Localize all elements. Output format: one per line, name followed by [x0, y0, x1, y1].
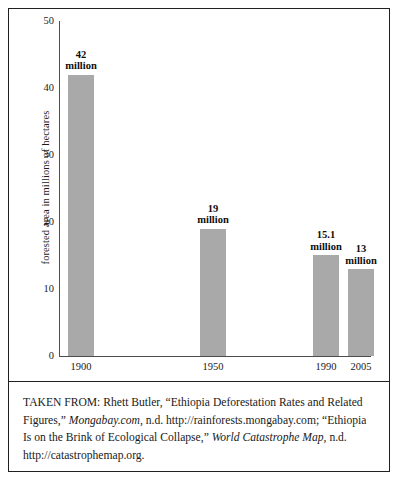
bar-1950[interactable] [200, 229, 226, 356]
y-tick-label-40: 40 [44, 83, 55, 94]
bar-value-1950-number: 19 [208, 203, 219, 214]
plot-area: 0 10 20 30 40 50 42 million 19 millio [59, 21, 371, 356]
bar-value-1900-number: 42 [76, 49, 87, 60]
citation-line-2-prefix: Figures,” [23, 414, 69, 427]
bar-chart: forested area in millions of hectares 0 … [9, 9, 389, 381]
bar-value-2005-number: 13 [356, 243, 367, 254]
bar-1990[interactable] [313, 255, 339, 356]
citation-line-1: TAKEN FROM: Rhett Butler, “Ethiopia Defo… [23, 396, 363, 409]
y-tick-label-10: 10 [44, 284, 55, 295]
x-axis-line [59, 356, 371, 357]
citation-source-mongabay: Mongabay.com [69, 414, 140, 427]
y-tick-label-30: 30 [44, 150, 55, 161]
bar-value-1950: 19 million [180, 203, 246, 227]
x-tick-label-2005: 2005 [339, 361, 383, 372]
bar-value-2005-unit: million [345, 255, 377, 266]
x-tick-label-1950: 1950 [191, 361, 235, 372]
bar-1900[interactable] [68, 75, 94, 356]
citation-source-world-catastrophe: World Catastrophe [212, 431, 300, 444]
source-citation: TAKEN FROM: Rhett Butler, “Ethiopia Defo… [23, 394, 377, 464]
section-divider [9, 381, 389, 382]
bar-value-1900-unit: million [65, 60, 97, 71]
citation-source-map: Map [302, 431, 323, 444]
bar-value-1990-number: 15.1 [317, 229, 335, 240]
bar-value-2005: 13 million [328, 243, 394, 267]
y-tick-label-0: 0 [49, 351, 54, 362]
bar-2005[interactable] [348, 269, 374, 356]
x-tick-label-1900: 1900 [59, 361, 103, 372]
bar-value-1900: 42 million [48, 49, 114, 73]
y-tick-label-50: 50 [44, 16, 55, 27]
figure-frame: forested area in millions of hectares 0 … [8, 8, 390, 472]
y-axis-title: forested area in millions of hectares [40, 88, 51, 288]
citation-line-2-suffix: , n.d. http://rainforests.mongabay.com; [140, 414, 319, 427]
y-tick-label-20: 20 [44, 217, 55, 228]
figure-page: forested area in millions of hectares 0 … [0, 0, 404, 478]
bar-value-1950-unit: million [197, 214, 229, 225]
